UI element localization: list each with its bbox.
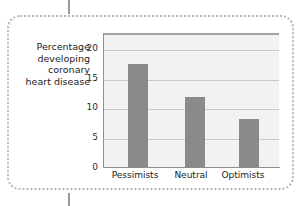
x-tick-label-pessimists: Pessimists: [105, 170, 165, 180]
x-axis-line: [103, 167, 280, 168]
crop-mark-bottom-icon: [68, 193, 70, 206]
bars-layer: [103, 33, 279, 167]
y-tick-label-10: 10: [74, 103, 98, 112]
crop-mark-top-icon: [68, 0, 70, 14]
x-tick-label-neutral: Neutral: [164, 170, 218, 180]
y-tick-label-5: 5: [74, 133, 98, 142]
chart-figure: Percentage developing coronary heart dis…: [0, 0, 301, 206]
y-tick-label-0: 0: [74, 163, 98, 172]
x-tick-label-optimists: Optimists: [213, 170, 273, 180]
bar-optimists: [239, 119, 259, 167]
bar-neutral: [185, 97, 205, 167]
y-tick-label-20: 20: [74, 44, 98, 53]
y-axis-title-line-2: developing: [14, 53, 90, 65]
y-tick-label-15: 15: [74, 74, 98, 83]
bar-pessimists: [128, 64, 148, 167]
